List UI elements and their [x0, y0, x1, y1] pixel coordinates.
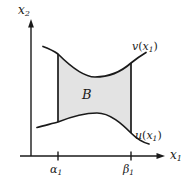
- y-axis-label: x2: [18, 4, 30, 17]
- y-axis-arrow-icon: [28, 19, 34, 28]
- lower-boundary-label: u(x1): [135, 130, 162, 142]
- region-b-fill: [58, 54, 131, 133]
- y-axis-label-base: x: [18, 3, 25, 17]
- x-axis-label-sub: 1: [177, 153, 182, 163]
- x-axis-arrow-icon: [157, 153, 166, 159]
- curve-u-lower-boundary: [37, 113, 149, 144]
- x-axis-label-base: x: [170, 148, 177, 162]
- tick-label-beta-1-sub: 1: [129, 168, 134, 177]
- region-label-b: B: [82, 88, 92, 101]
- lower-boundary-paren-close: ): [157, 129, 161, 142]
- x-axis-label: x1: [170, 149, 182, 162]
- figure-region-b: x2 x1 v(x1) u(x1) B α1 β1: [0, 0, 191, 182]
- tick-label-beta-1: β1: [123, 164, 134, 176]
- figure-canvas: [0, 0, 191, 182]
- tick-label-alpha-1: α1: [50, 164, 62, 176]
- upper-boundary-paren-close: ): [154, 40, 158, 53]
- y-axis-label-sub: 2: [25, 8, 30, 18]
- tick-label-alpha-1-sub: 1: [57, 168, 62, 177]
- upper-boundary-label: v(x1): [132, 41, 158, 53]
